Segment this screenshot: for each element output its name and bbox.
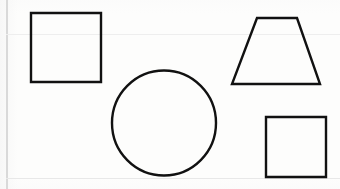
circle-shape-center[interactable] [112, 71, 216, 176]
worksheet-page [0, 0, 340, 189]
shape-canvas [0, 0, 340, 189]
square-shape-top-left[interactable] [31, 13, 101, 82]
trapezoid-shape-top-right[interactable] [232, 18, 320, 84]
square-shape-bottom-right[interactable] [266, 117, 326, 177]
